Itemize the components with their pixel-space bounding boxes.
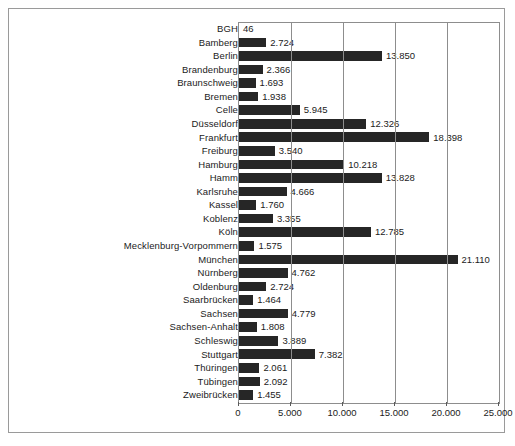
bar-value-label: 46 <box>239 22 254 36</box>
bar <box>238 309 288 319</box>
bar-value-label: 1.575 <box>254 239 282 253</box>
bar-row: Bamberg2.724 <box>9 36 506 50</box>
bar-track: 2.366 <box>238 63 498 77</box>
bar-track: 12.326 <box>238 117 498 131</box>
bar-track: 2.724 <box>238 36 498 50</box>
bar-track: 1.693 <box>238 76 498 90</box>
bar-row: Hamm13.828 <box>9 171 506 185</box>
category-label: Nürnberg <box>198 266 238 280</box>
bar-value-label: 1.808 <box>257 320 285 334</box>
bar-value-label: 3.889 <box>278 334 306 348</box>
bar-value-label: 13.850 <box>382 49 415 63</box>
bar-track: 2.724 <box>238 280 498 294</box>
bar-rows-container: BGH46Bamberg2.724Berlin13.850Brandenburg… <box>9 22 506 402</box>
category-label: Karlsruhe <box>196 185 238 199</box>
x-axis-tick-label: 10.000 <box>327 407 356 418</box>
category-label: Bamberg <box>199 36 238 50</box>
bar-track: 2.092 <box>238 375 498 389</box>
category-label: Köln <box>219 225 238 239</box>
category-label: Stuttgart <box>201 348 238 362</box>
bar-row: Sachsen-Anhalt1.808 <box>9 320 506 334</box>
category-label: München <box>198 253 238 267</box>
bar-value-label: 2.724 <box>266 280 294 294</box>
category-label: Hamburg <box>198 158 238 172</box>
bar-value-label: 4.779 <box>288 307 316 321</box>
bar-row: Nürnberg4.762 <box>9 266 506 280</box>
x-axis-tick <box>342 402 343 406</box>
bar-track: 1.575 <box>238 239 498 253</box>
bar-track: 1.938 <box>238 90 498 104</box>
bar-row: Sachsen4.779 <box>9 307 506 321</box>
x-axis-tick-label: 20.000 <box>431 407 460 418</box>
bar <box>238 390 253 400</box>
bar <box>238 295 253 305</box>
bar <box>238 214 273 224</box>
category-label: Sachsen-Anhalt <box>170 320 238 334</box>
bar-value-label: 21.110 <box>458 253 490 267</box>
category-label: Düsseldorf <box>192 117 238 131</box>
category-label: Sachsen <box>200 307 238 321</box>
bar-value-label: 2.366 <box>263 63 291 77</box>
category-label: Tübingen <box>198 375 238 389</box>
bar-value-label: 1.693 <box>256 76 284 90</box>
bar <box>238 132 429 142</box>
bar-value-label: 18.398 <box>429 131 462 145</box>
bar <box>238 105 300 115</box>
bar <box>238 92 258 102</box>
x-axis-tick <box>446 402 447 406</box>
bar-row: BGH46 <box>9 22 506 36</box>
bar-value-label: 2.061 <box>259 361 287 375</box>
bar-row: Berlin13.850 <box>9 49 506 63</box>
category-label: Mecklenburg-Vorpommern <box>124 239 238 253</box>
bar-value-label: 7.382 <box>315 348 343 362</box>
category-label: Schleswig <box>194 334 238 348</box>
bar-row: Bremen1.938 <box>9 90 506 104</box>
x-axis-tick <box>238 402 239 406</box>
bar <box>238 200 256 210</box>
bar-value-label: 4.666 <box>287 185 315 199</box>
bar-row: Kassel1.760 <box>9 198 506 212</box>
bar-row: Brandenburg2.366 <box>9 63 506 77</box>
bar <box>238 363 259 373</box>
bar-track: 4.779 <box>238 307 498 321</box>
category-label: Saarbrücken <box>183 293 238 307</box>
bar <box>238 268 288 278</box>
bar <box>238 227 371 237</box>
bar-value-label: 1.455 <box>253 388 281 402</box>
bar-row: Oldenburg2.724 <box>9 280 506 294</box>
bar-row: Köln12.785 <box>9 225 506 239</box>
category-label: Koblenz <box>203 212 238 226</box>
category-label: Zweibrücken <box>183 388 238 402</box>
bar-value-label: 3.540 <box>275 144 303 158</box>
x-axis: 05.00010.00015.00020.00025.000 <box>238 402 498 428</box>
bar-row: Stuttgart7.382 <box>9 348 506 362</box>
bar-value-label: 5.945 <box>300 103 328 117</box>
bar-track: 18.398 <box>238 131 498 145</box>
category-label: Berlin <box>213 49 238 63</box>
bar-track: 21.110 <box>238 253 498 267</box>
category-label: Bremen <box>204 90 238 104</box>
bar <box>238 65 263 75</box>
x-axis-tick <box>394 402 395 406</box>
bar-track: 1.464 <box>238 293 498 307</box>
bar <box>238 160 344 170</box>
bar-row: Mecklenburg-Vorpommern1.575 <box>9 239 506 253</box>
bar-row: Zweibrücken1.455 <box>9 388 506 402</box>
bar-value-label: 1.464 <box>253 293 281 307</box>
category-label: Hamm <box>210 171 238 185</box>
bar-track: 1.760 <box>238 198 498 212</box>
bar-track: 4.666 <box>238 185 498 199</box>
bar <box>238 38 266 48</box>
category-label: Kassel <box>209 198 238 212</box>
bar-row: Hamburg10.218 <box>9 158 506 172</box>
bar <box>238 255 458 265</box>
bar-track: 10.218 <box>238 158 498 172</box>
bar-track: 3.355 <box>238 212 498 226</box>
bar <box>238 78 256 88</box>
bar-track: 12.785 <box>238 225 498 239</box>
bar-track: 3.540 <box>238 144 498 158</box>
x-axis-tick-label: 0 <box>235 407 240 418</box>
bar-value-label: 12.785 <box>371 225 404 239</box>
bar-row: Düsseldorf12.326 <box>9 117 506 131</box>
x-axis-tick <box>498 402 499 406</box>
